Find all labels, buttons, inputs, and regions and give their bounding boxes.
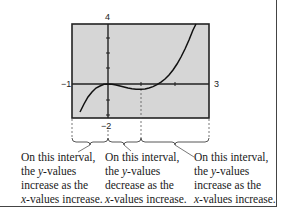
y-min-label: −2	[101, 121, 111, 131]
annotation-increasing-right: On this interval, the y-values increase …	[194, 150, 276, 206]
x-min-label: −1	[61, 79, 71, 89]
annotation-increasing-left: On this interval, the y-values increase …	[21, 150, 103, 206]
annotation-decreasing-middle: On this interval, the y-values decrease …	[105, 150, 187, 206]
viewing-window	[72, 24, 209, 118]
brace-interval-1	[72, 138, 108, 145]
y-max-label: 4	[105, 12, 110, 22]
brace-interval-3	[141, 138, 209, 145]
brace-interval-2	[108, 138, 141, 145]
interval-braces	[72, 138, 209, 145]
x-max-label: 3	[214, 79, 219, 89]
